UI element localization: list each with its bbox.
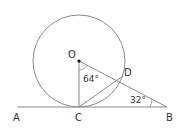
label-b: B xyxy=(166,112,173,123)
label-c: C xyxy=(75,112,82,123)
segment-ob xyxy=(79,61,167,107)
label-o: O xyxy=(68,49,76,60)
angle-arc-b xyxy=(150,99,152,107)
angle-label-cod: 64° xyxy=(83,74,99,84)
label-d: D xyxy=(124,67,132,78)
angle-label-b: 32° xyxy=(130,95,146,105)
angle-arc-cod xyxy=(79,65,87,70)
label-a: A xyxy=(13,112,20,123)
center-point-o xyxy=(77,59,80,62)
geometry-diagram: O D C A B 64° 32° xyxy=(0,0,184,131)
